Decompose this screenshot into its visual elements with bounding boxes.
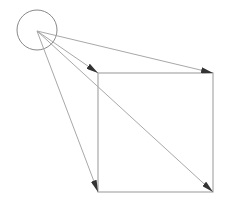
diagram-svg (0, 0, 231, 209)
square-node (98, 73, 213, 192)
arrow-to-top-right (37, 31, 213, 73)
diagram-canvas (0, 0, 231, 209)
arrow-to-top-left (37, 31, 98, 73)
arrow-to-bottom-right (37, 31, 213, 192)
arrow-group (37, 31, 213, 192)
arrow-to-bottom-left (37, 31, 98, 192)
